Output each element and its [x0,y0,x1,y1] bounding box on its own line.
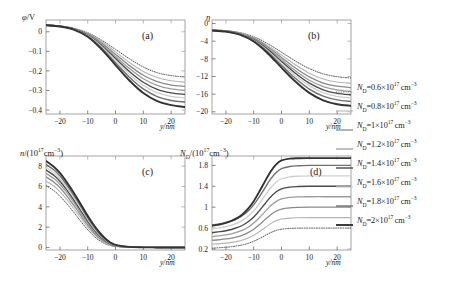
svg-text:−10: −10 [82,117,94,126]
svg-text:−0.3: −0.3 [28,86,42,95]
svg-text:1.8: 1.8 [199,161,209,170]
svg-text:−8: −8 [200,55,208,64]
panel-c-xlabel: y/nm [160,258,175,267]
panel-c: n/(1017cm−3) −20−100102002468 (c) y/nm [14,148,189,270]
svg-text:1: 1 [204,203,208,212]
legend-item-label: ND=1×1017 cm−3 [357,121,410,130]
svg-text:−20: −20 [54,253,66,262]
svg-text:10: 10 [140,253,148,262]
legend-item-label: ND=1.6×1017 cm−3 [357,178,416,187]
panel-a: φ/V −20−10010200−0.1−0.2−0.3−0.4 (a) y/n… [14,12,189,134]
legend-item: ND=1.2×1017 cm−3 [336,135,464,154]
svg-text:−0.1: −0.1 [28,47,42,56]
svg-text:−0.2: −0.2 [28,67,42,76]
svg-text:1.4: 1.4 [199,182,209,191]
legend-item: ND=1.4×1017 cm−3 [336,154,464,173]
legend-item-label: ND=1.4×1017 cm−3 [357,159,416,168]
panel-a-plot: −20−10010200−0.1−0.2−0.3−0.4 [14,12,189,134]
svg-text:−16: −16 [196,90,208,99]
panel-c-ylabel: n/(1017cm−3) [20,148,63,158]
svg-text:0: 0 [114,253,118,262]
figure-canvas: φ/V −20−10010200−0.1−0.2−0.3−0.4 (a) y/n… [0,0,465,288]
svg-text:0: 0 [114,117,118,126]
svg-text:10: 10 [140,117,148,126]
panel-a-ylabel: φ/V [22,12,35,22]
legend-item-label: ND=1.2×1017 cm−3 [357,140,416,149]
panel-d-xlabel: y/nm [326,258,341,267]
legend-line-swatch [336,83,353,93]
legend-item-label: ND=0.6×1017 cm−3 [357,83,416,92]
legend-line-swatch [336,216,353,226]
panel-b: η −20−10010200−4−8−12−16−20 (b) y/nm [180,12,355,134]
svg-text:10: 10 [306,253,314,262]
svg-text:0: 0 [280,253,284,262]
svg-text:0.2: 0.2 [199,245,209,254]
panel-a-tag: (a) [142,30,153,41]
panel-c-tag: (c) [142,166,153,177]
svg-text:6: 6 [38,182,42,191]
svg-text:−4: −4 [200,37,208,46]
legend-item-label: ND=1.8×1017 cm−3 [357,197,416,206]
legend-item: ND=2×1017 cm−3 [336,211,464,230]
legend: ND=0.6×1017 cm−3ND=0.8×1017 cm−3ND=1×101… [336,78,464,230]
panel-a-xlabel: y/nm [160,122,175,131]
svg-text:−10: −10 [248,253,260,262]
legend-item: ND=1×1017 cm−3 [336,116,464,135]
panel-c-plot: −20−100102002468 [14,148,189,270]
legend-line-swatch [336,121,353,131]
svg-text:−10: −10 [248,117,260,126]
legend-line-swatch [336,159,353,169]
legend-item: ND=0.8×1017 cm−3 [336,97,464,116]
svg-text:−10: −10 [82,253,94,262]
legend-item: ND=1.6×1017 cm−3 [336,173,464,192]
svg-text:−20: −20 [220,117,232,126]
svg-text:−12: −12 [196,72,208,81]
svg-text:0: 0 [280,117,284,126]
legend-item: ND=1.8×1017 cm−3 [336,192,464,211]
legend-item-label: ND=0.8×1017 cm−3 [357,102,416,111]
legend-line-swatch [336,197,353,207]
panel-d-tag: (d) [310,166,322,177]
legend-item: ND=0.6×1017 cm−3 [336,78,464,97]
legend-line-swatch [336,140,353,150]
svg-text:0: 0 [38,243,42,252]
legend-item-label: ND=2×1017 cm−3 [357,216,410,225]
svg-text:4: 4 [38,203,42,212]
panel-b-ylabel: η [206,12,210,22]
panel-d: ND/(1017cm−3) −20−10010200.20.611.41.8 (… [180,148,355,270]
svg-text:10: 10 [306,117,314,126]
svg-text:−0.4: −0.4 [28,106,42,115]
svg-text:8: 8 [38,162,42,171]
panel-b-plot: −20−10010200−4−8−12−16−20 [180,12,355,134]
svg-text:−20: −20 [220,253,232,262]
panel-d-plot: −20−10010200.20.611.41.8 [180,148,355,270]
panel-d-ylabel: ND/(1017cm−3) [180,148,229,158]
panel-b-tag: (b) [308,30,320,41]
svg-text:2: 2 [38,223,42,232]
svg-text:0.6: 0.6 [199,224,209,233]
svg-text:−20: −20 [54,117,66,126]
svg-text:−20: −20 [196,107,208,116]
legend-line-swatch [336,178,353,188]
svg-text:0: 0 [38,27,42,36]
legend-line-swatch [336,102,353,112]
